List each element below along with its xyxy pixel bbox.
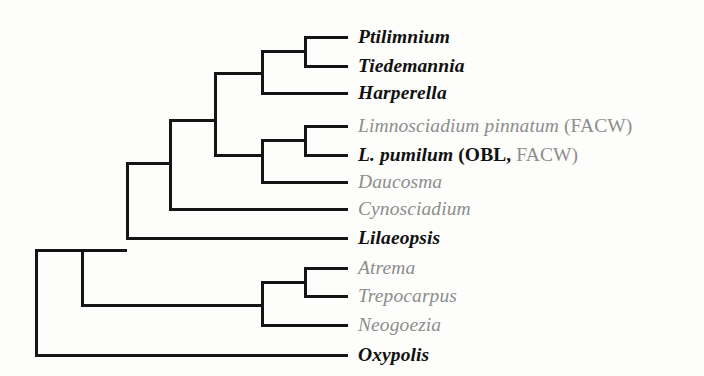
taxon-label-segment: Cynosciadium	[358, 198, 471, 219]
taxon-label-limnosciadium-pinnatum: Limnosciadium pinnatum (FACW)	[358, 116, 632, 136]
taxon-label-cynosciadium: Cynosciadium	[358, 199, 471, 219]
taxon-label-segment: Atrema	[358, 257, 415, 278]
taxon-label-segment: Daucosma	[358, 171, 442, 192]
taxon-label-harperella: Harperella	[358, 83, 447, 103]
cladogram-figure: PtilimniumTiedemanniaHarperellaLimnoscia…	[0, 0, 704, 376]
taxon-label-group: PtilimniumTiedemanniaHarperellaLimnoscia…	[0, 0, 704, 376]
taxon-label-segment: FACW)	[516, 144, 578, 165]
taxon-label-segment: Harperella	[358, 82, 447, 103]
taxon-label-segment: Lilaeopsis	[358, 227, 440, 248]
taxon-label-segment: Limnosciadium pinnatum	[358, 115, 559, 136]
taxon-label-ptilimnium: Ptilimnium	[358, 27, 450, 47]
taxon-label-segment: Ptilimnium	[358, 26, 450, 47]
taxon-label-segment: Neogoezia	[358, 314, 441, 335]
taxon-label-segment: Oxypolis	[358, 344, 429, 365]
taxon-label-segment: Tiedemannia	[358, 55, 465, 76]
taxon-label-daucosma: Daucosma	[358, 172, 442, 192]
taxon-label-lilaeopsis: Lilaeopsis	[358, 228, 440, 248]
taxon-label-segment: (FACW)	[564, 115, 632, 136]
taxon-label-trepocarpus: Trepocarpus	[358, 286, 457, 306]
taxon-label-tiedemannia: Tiedemannia	[358, 56, 465, 76]
taxon-label-atrema: Atrema	[358, 258, 415, 278]
taxon-label-segment: (OBL,	[458, 144, 511, 165]
taxon-label-neogoezia: Neogoezia	[358, 315, 441, 335]
taxon-label-l-pumilum: L. pumilum (OBL, FACW)	[358, 145, 578, 165]
taxon-label-segment: Trepocarpus	[358, 285, 457, 306]
taxon-label-segment: L. pumilum	[358, 144, 453, 165]
taxon-label-oxypolis: Oxypolis	[358, 345, 429, 365]
